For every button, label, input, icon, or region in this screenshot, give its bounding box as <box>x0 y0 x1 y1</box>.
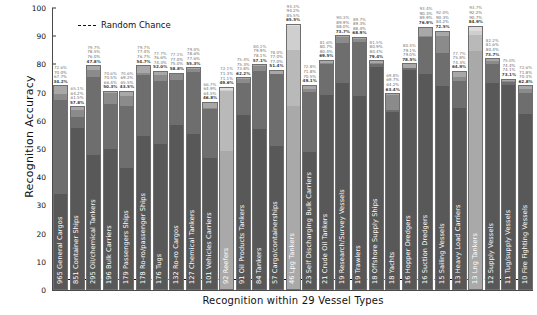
bar-column[interactable]: 78.0%77.0%77.0%51.4%57 Cargo/containersh… <box>269 8 284 290</box>
bar-value-labels: 72.8%71.8%70.5%49.1% <box>303 65 317 83</box>
bar-value-label: 73.7% <box>485 53 499 58</box>
x-category-label: 851 Container Ships <box>72 215 80 284</box>
x-axis-line <box>52 290 533 291</box>
bar-value-labels: 72.6%71.8%70.3%62.8% <box>518 66 532 84</box>
bar-value-label: 78.5% <box>402 58 416 63</box>
bar-value-labels: 89.7%89.3%88.4%68.9% <box>352 18 366 36</box>
x-category-label: 15 Sailing Vessels <box>438 223 446 284</box>
x-category-label: 16 Suction Dredgers <box>421 215 429 284</box>
bar-segment <box>253 71 266 130</box>
bar-value-label: 43.5% <box>120 85 134 90</box>
x-category-label: 92 Reefers <box>222 248 230 284</box>
bar-column[interactable]: 80.4%79.1%79.0%78.5%16 Hopper Dredgers <box>402 8 417 290</box>
x-category-label: 84 Tankers <box>255 248 263 284</box>
bar-column[interactable]: 81.5%80.9%80.4%79.4%18 Offshore Supply S… <box>369 8 384 290</box>
bar-segment <box>287 50 300 106</box>
bar-segment <box>320 64 333 94</box>
x-category-label: 12 Supply Vessels <box>488 223 496 284</box>
bar-column[interactable]: 72.8%71.8%70.5%49.1%23 Self Discharging … <box>302 8 317 290</box>
bar-column[interactable]: 75.0%74.4%74.1%73.1%11 Tug/supply Vessel… <box>501 8 516 290</box>
bar-value-label: 62.2% <box>236 72 250 77</box>
bar-column[interactable]: 75.4%75.3%73.8%62.2%91 Oil Products Tank… <box>236 8 251 290</box>
bar-column[interactable]: 90.3%89.9%88.0%73.7%19 Research/Survey V… <box>335 8 350 290</box>
bar-segment <box>71 110 84 118</box>
y-tick-label: 80 <box>36 60 46 69</box>
bar-column[interactable]: 77.1%77.0%75.0%58.8%132 Ro-ro Cargos <box>169 8 184 290</box>
bar-segment <box>87 70 100 77</box>
bar-column[interactable]: 81.6%80.7%80.4%69.5%21 Crude Oil Tankers <box>319 8 334 290</box>
y-tick-label: 70 <box>36 88 46 97</box>
x-category-label: 19 Research/Survey Vessels <box>338 189 346 284</box>
bar-segment <box>336 43 349 83</box>
bar-column[interactable]: 70.6%70.5%66.4%50.3%196 Bulk Carriers <box>103 8 118 290</box>
bar-column[interactable]: 89.7%89.3%88.4%68.9%19 Trawlers <box>352 8 367 290</box>
bar-value-labels: 93.4%90.3%89.9%76.9% <box>419 7 433 25</box>
bar-segment <box>54 100 67 194</box>
bar-column[interactable]: 93.7%92.2%90.7%84.9%13 Lng Tankers <box>468 8 483 290</box>
x-category-label: 21 Crude Oil Tankers <box>322 214 330 284</box>
y-tick-label: 90 <box>36 32 46 41</box>
bar-segment <box>353 42 366 97</box>
bar-value-label: 79.4% <box>369 55 383 60</box>
bar-value-labels: 70.6%69.2%65.5%43.5% <box>120 72 134 90</box>
bar-value-label: 52.0% <box>153 65 167 70</box>
bar-value-labels: 82.2%81.6%80.4%73.7% <box>485 39 499 57</box>
bar-segment <box>453 81 466 107</box>
bar-column[interactable]: 77.7%76.6%74.3%52.0%176 Tugs <box>153 8 168 290</box>
bar-value-label: 68.9% <box>352 31 366 36</box>
x-category-label: 18 Offshore Supply Ships <box>371 199 379 284</box>
bar-column[interactable]: 72.6%70.0%67.7%34.2%965 General Cargos <box>53 8 68 290</box>
bar-value-labels: 93.7%92.2%90.7%84.9% <box>469 6 483 24</box>
x-category-label: 16 Hopper Dredgers <box>405 215 413 284</box>
bar-segment <box>419 37 432 73</box>
bar-column[interactable]: 92.0%90.3%84.2%72.5%15 Sailing Vessels <box>435 8 450 290</box>
bar-value-labels: 78.0%77.0%77.0%51.4% <box>269 51 283 69</box>
bar-column[interactable]: 94.3%94.2%85.5%65.5%46 Lpg Tankers <box>286 8 301 290</box>
bar-value-labels: 90.3%89.9%88.0%73.7% <box>336 16 350 34</box>
bar-column[interactable]: 65.1%64.2%61.5%57.8%851 Container Ships <box>70 8 85 290</box>
bar-column[interactable]: 79.0%78.6%77.6%55.3%127 Chemical Tankers <box>186 8 201 290</box>
bar-value-label: 72.5% <box>435 25 449 30</box>
bar-segment <box>287 26 300 50</box>
bar-column[interactable]: 79.7%77.4%76.7%54.7%178 Ro-ro/passenger … <box>136 8 151 290</box>
x-category-label: 11 Tug/supply Vessels <box>504 210 512 284</box>
y-tick-label: 50 <box>36 145 46 154</box>
bar-column[interactable]: 69.8%69.7%64.2%63.4%18 Yachts <box>385 8 400 290</box>
bar-value-label: 47.8% <box>87 60 101 65</box>
bar-value-labels: 69.8%69.7%64.2%63.4% <box>386 74 400 92</box>
bar-value-label: 58.8% <box>170 67 184 72</box>
bar-value-labels: 77.1%77.0%75.0%58.8% <box>170 53 184 71</box>
bar-column[interactable]: 66.7%64.9%64.5%46.8%101 Vehicles Carrier… <box>202 8 217 290</box>
bar-column[interactable]: 80.1%79.9%78.1%57.1%84 Tankers <box>252 8 267 290</box>
bar-segment <box>203 109 216 158</box>
bar-value-label: 57.8% <box>70 101 84 106</box>
bar-column[interactable]: 93.4%90.3%89.9%76.9%16 Suction Dredgers <box>418 8 433 290</box>
bar-segment <box>71 117 84 127</box>
plot-area: 72.6%70.0%67.7%34.2%965 General Cargos65… <box>53 8 533 290</box>
bar-value-labels: 92.0%90.3%84.2%72.5% <box>435 11 449 29</box>
bar-segment <box>187 72 200 134</box>
bar-group: 72.6%70.0%67.7%34.2%965 General Cargos65… <box>53 8 533 290</box>
bar-value-label: 69.5% <box>319 54 333 59</box>
bar-column[interactable]: 77.7%75.8%74.3%64.9%13 Heavy Load Carrie… <box>452 8 467 290</box>
x-category-label: 132 Ro-ro Cargos <box>172 225 180 284</box>
bar-value-labels: 94.3%94.2%85.5%65.5% <box>286 5 300 23</box>
bar-value-label: 49.1% <box>303 79 317 84</box>
bar-segment <box>436 36 449 53</box>
bar-column[interactable]: 72.6%71.8%70.3%62.8%10 Fire Fighting Ves… <box>518 8 533 290</box>
bar-value-labels: 65.1%64.2%61.5%57.8% <box>70 87 84 105</box>
bar-value-label: 73.1% <box>502 73 516 78</box>
bar-column[interactable]: 79.7%78.5%76.0%47.8%295 Oil/chemical Tan… <box>86 8 101 290</box>
bar-segment <box>270 74 283 145</box>
bar-column[interactable]: 72.1%71.3%71.1%49.6%92 Reefers <box>219 8 234 290</box>
x-category-label: 23 Self Discharging Bulk Carriers <box>305 172 313 284</box>
bar-segment <box>386 95 399 110</box>
bar-column[interactable]: 82.2%81.6%80.4%73.7%12 Supply Vessels <box>485 8 500 290</box>
bar-column[interactable]: 70.6%69.2%65.5%43.5%179 Passengers Ships <box>119 8 134 290</box>
bar-value-labels: 81.5%80.9%80.4%79.4% <box>369 41 383 59</box>
chart-root: Recognition Accuracy 0102030405060708090… <box>0 0 537 315</box>
bar-value-labels: 72.1%71.3%71.1%49.6% <box>219 67 233 85</box>
bar-segment <box>54 86 67 93</box>
bar-value-labels: 70.6%70.5%66.4%50.3% <box>103 72 117 90</box>
bar-value-label: 64.9% <box>452 65 466 70</box>
